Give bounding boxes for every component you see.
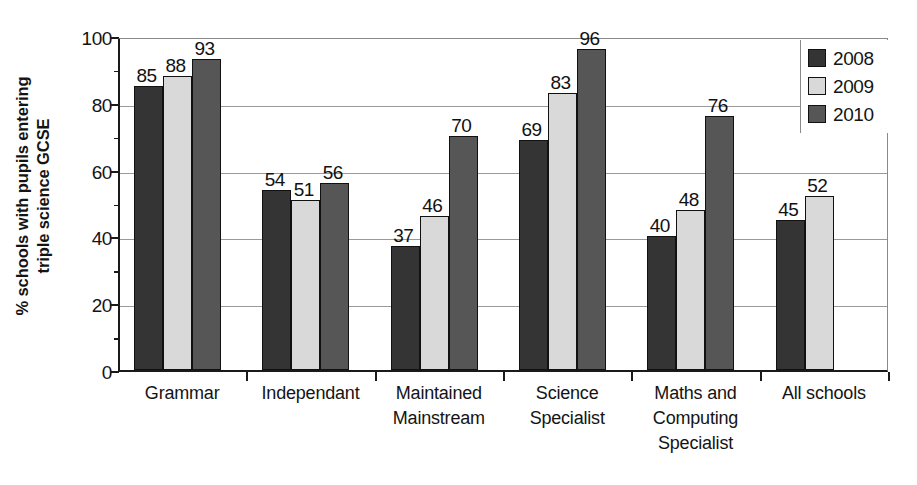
x-axis-category-label-line: Specialist [631,431,759,456]
bar-value-label: 88 [156,56,196,75]
legend-swatch-icon [808,49,826,67]
x-axis-category-label: All schools [760,381,888,406]
x-axis-category-label-line: Independant [246,381,374,406]
y-axis-tick-label: 20 [64,296,112,315]
bar-value-label: 76 [698,96,738,115]
bar [163,76,192,370]
x-axis-category-label-line: Mainstream [375,406,503,431]
x-axis-category-label: MaintainedMainstream [375,381,503,431]
legend-label: 2008 [833,49,874,68]
x-axis-category-label-line: Science [503,381,631,406]
bar-value-label: 48 [669,190,709,209]
y-axis-tick-label: 80 [64,96,112,115]
bar [776,220,805,370]
x-axis-category-label-line: Maths and [631,381,759,406]
x-axis-category-label-line: Maintained [375,381,503,406]
bar-value-label: 37 [383,226,423,245]
bar-value-label: 45 [768,200,808,219]
bar [320,183,349,370]
bar [420,216,449,370]
x-axis-tick [503,372,505,381]
y-axis-tick-label: 60 [64,163,112,182]
gridline [120,173,887,174]
bar [577,49,606,370]
y-axis-title-line2: triple science GCSE [33,6,54,386]
y-axis-tick-label: 100 [64,29,112,48]
x-axis-category-label: ScienceSpecialist [503,381,631,431]
bar [676,210,705,370]
gridline [120,306,887,307]
bar-value-label: 46 [412,196,452,215]
legend-swatch-icon [808,77,826,95]
bar-value-label: 52 [797,176,837,195]
x-axis-tick [760,372,762,381]
bar [647,236,676,370]
y-axis-tick-label: 40 [64,229,112,248]
bar [391,246,420,370]
bar-value-label: 70 [441,116,481,135]
x-axis-category-label-line: Grammar [118,381,246,406]
y-axis-tick-labels: 020406080100 [62,0,112,400]
bar-value-label: 40 [640,216,680,235]
bar-value-label: 69 [512,120,552,139]
bar [519,140,548,370]
legend-item-2010[interactable]: 2010 [808,102,874,126]
legend-label: 2010 [833,105,874,124]
bar [449,136,478,370]
bar-value-label: 96 [570,29,610,48]
x-axis-tick [246,372,248,381]
bar [134,86,163,370]
gridline [120,106,887,107]
bar-value-label: 56 [313,163,353,182]
x-axis-tick [375,372,377,381]
legend: 200820092010 [800,40,888,133]
legend-swatch-icon [808,105,826,123]
bar [705,116,734,370]
bar-chart-figure: % schools with pupils entering triple sc… [0,0,917,485]
bar-value-label: 93 [185,39,225,58]
y-axis-title-line1: % schools with pupils entering [12,6,33,386]
x-axis-category-label: Independant [246,381,374,406]
x-axis-tick [888,372,890,381]
bar [291,200,320,370]
gridline [120,239,887,240]
x-axis-category-label-line: Computing [631,406,759,431]
bar [805,196,834,370]
bar-value-label: 83 [541,73,581,92]
bar-value-label: 51 [284,180,324,199]
legend-label: 2009 [833,77,874,96]
bar [192,59,221,370]
legend-item-2009[interactable]: 2009 [808,74,874,98]
bar [262,190,291,370]
y-axis-tick-label: 0 [64,363,112,382]
x-axis-tick [631,372,633,381]
bar [548,93,577,370]
x-axis-category-label: Maths andComputingSpecialist [631,381,759,456]
y-axis-title: % schools with pupils entering triple sc… [0,0,64,400]
legend-item-2008[interactable]: 2008 [808,46,874,70]
x-axis-category-label: Grammar [118,381,246,406]
x-axis-category-label-line: All schools [760,381,888,406]
x-axis-category-label-line: Specialist [503,406,631,431]
